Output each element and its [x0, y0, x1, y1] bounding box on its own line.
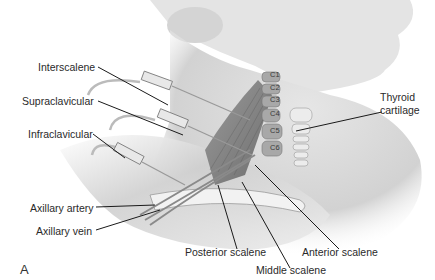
label-c1: C1	[270, 70, 280, 79]
label-c2: C2	[270, 83, 280, 92]
label-anterior-scalene: Anterior scalene	[302, 246, 378, 258]
label-supraclavicular: Supraclavicular	[22, 95, 94, 107]
label-middle-scalene: Middle scalene	[256, 264, 326, 276]
label-axillary-artery: Axillary artery	[30, 202, 94, 214]
label-thyroid-cartilage-1: Thyroid	[380, 91, 415, 103]
label-axillary-vein: Axillary vein	[36, 225, 92, 237]
label-c6: C6	[270, 143, 280, 152]
label-c4: C4	[270, 109, 280, 118]
label-c5: C5	[270, 126, 280, 135]
panel-letter: A	[20, 262, 29, 277]
label-interscalene: Interscalene	[38, 61, 95, 73]
anatomy-figure: Interscalene Supraclavicular Infraclavic…	[0, 0, 435, 280]
label-thyroid-cartilage-2: cartilage	[380, 104, 420, 116]
anatomy-illustration	[0, 0, 435, 280]
label-posterior-scalene: Posterior scalene	[185, 246, 266, 258]
label-infraclavicular: Infraclavicular	[28, 128, 93, 140]
label-c3: C3	[270, 95, 280, 104]
